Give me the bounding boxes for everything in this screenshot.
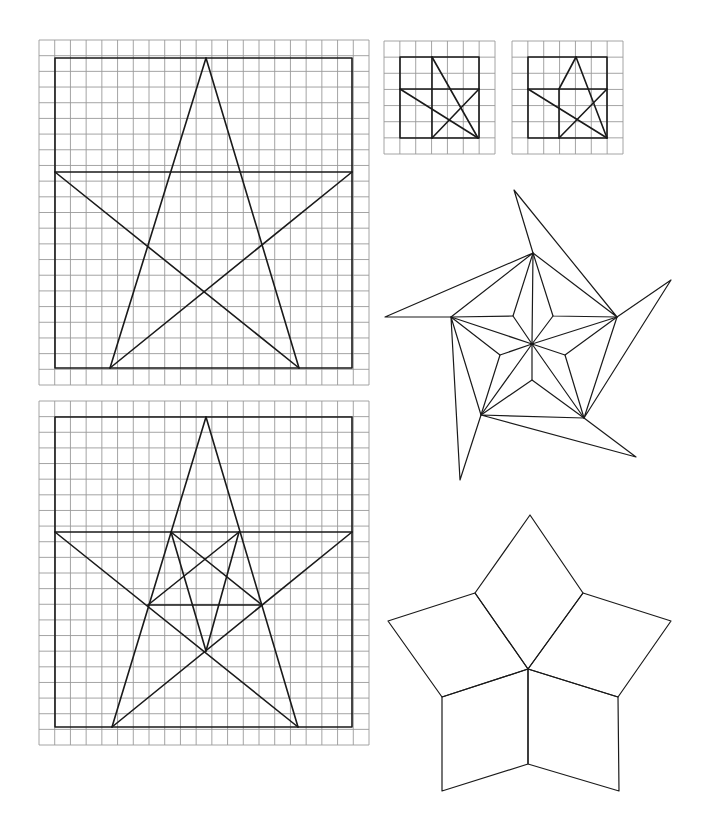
construction-line	[171, 532, 262, 605]
rhombus-star	[388, 515, 671, 791]
rhombus	[442, 669, 528, 791]
valley-line	[500, 344, 532, 355]
construction-line	[110, 58, 206, 368]
valley-line	[532, 344, 565, 355]
rhombus	[475, 515, 583, 669]
ridge-line	[451, 317, 532, 344]
grid-star-small-1	[384, 41, 495, 154]
rhombus	[388, 593, 528, 697]
pinwheel-flap	[451, 317, 481, 480]
construction-line	[171, 532, 206, 651]
graph-paper-grid	[39, 40, 369, 385]
valley-line	[532, 316, 553, 344]
construction-line	[110, 172, 352, 368]
grid-star-large-bottom-with-inner-pentagram	[39, 401, 369, 745]
ridge-line	[481, 344, 532, 415]
construction-line	[55, 172, 299, 368]
graph-paper-grid	[39, 401, 369, 745]
ridge-line	[532, 344, 584, 418]
pinwheel-flap	[514, 190, 617, 317]
construction-line	[206, 532, 239, 651]
rhombus	[528, 669, 619, 791]
pinwheel-flap	[584, 280, 671, 418]
bounding-rectangle	[55, 58, 352, 368]
grid-star-large-top	[39, 40, 369, 385]
diagram-canvas	[0, 0, 703, 836]
pinwheel-star	[385, 190, 671, 480]
grid-star-small-2	[512, 41, 623, 154]
ridge-line	[532, 253, 533, 344]
valley-line	[513, 316, 532, 344]
construction-line	[528, 89, 607, 138]
pinwheel-flap	[481, 415, 636, 457]
rhombus	[528, 593, 671, 697]
bounding-rectangle	[528, 57, 607, 138]
ridge-line	[532, 317, 617, 344]
construction-line	[206, 58, 299, 368]
pinwheel-flap	[385, 253, 533, 317]
construction-line	[148, 532, 239, 605]
